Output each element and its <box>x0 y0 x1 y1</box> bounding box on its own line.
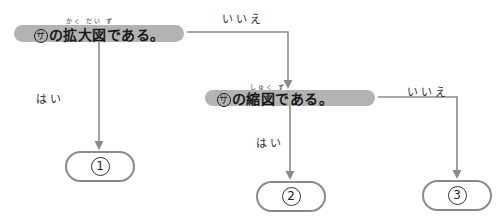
arrow-no-1 <box>187 32 288 87</box>
result-1-label: 1 <box>91 157 110 176</box>
circled-sa-icon: サ <box>34 29 48 43</box>
question-1-box: サの拡大図である。 <box>14 25 184 42</box>
result-3-oval: 3 <box>422 180 492 211</box>
arrowhead-icon <box>95 141 104 150</box>
result-2-oval: 2 <box>256 181 326 212</box>
result-3-label: 3 <box>448 186 467 205</box>
arrowhead-icon <box>286 171 295 180</box>
label-yes-2: はい <box>256 134 284 150</box>
result-2-label: 2 <box>282 187 301 206</box>
label-yes-1: はい <box>36 90 64 106</box>
question-2-box: サの縮図である。 <box>205 90 375 106</box>
arrow-no-2 <box>378 97 457 177</box>
flowchart: かく だい ず サの拡大図である。 しゅく ず サの縮図である。 いいえ はい … <box>0 0 501 219</box>
circled-sa-icon: サ <box>217 93 231 107</box>
label-no-1: いいえ <box>222 10 264 26</box>
result-1-oval: 1 <box>65 151 135 182</box>
label-no-2: いいえ <box>407 83 449 99</box>
question-2-text: の縮図である。 <box>232 91 334 107</box>
arrowhead-icon <box>453 170 462 179</box>
question-1-text: の拡大図である。 <box>49 27 165 43</box>
